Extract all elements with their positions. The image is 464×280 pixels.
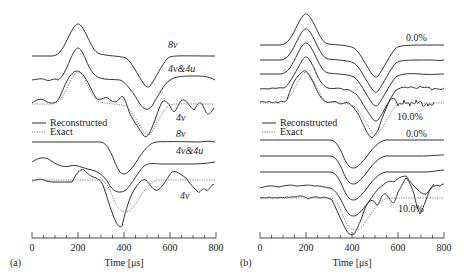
tick-a-800: 800 bbox=[209, 242, 224, 253]
label-a-lower-8v: 8v bbox=[176, 128, 186, 139]
x-axis-title-a: Time [μs] bbox=[104, 257, 143, 268]
tick-b-400: 400 bbox=[345, 242, 360, 253]
tick-a-200: 200 bbox=[71, 242, 86, 253]
trace-b-lower-1 bbox=[260, 155, 444, 184]
tick-a-0: 0 bbox=[30, 242, 35, 253]
label-a-lower-4v: 4v bbox=[180, 190, 190, 201]
tick-b-800: 800 bbox=[437, 242, 452, 253]
legend-b: Reconstructed Exact bbox=[262, 117, 337, 137]
figure: 8v 4v&4u 4v 8v 4v&4u 4v Reconstructed Ex… bbox=[0, 0, 464, 280]
x-axis-b: 0 200 400 600 800 Time [μs] bbox=[258, 232, 452, 268]
trace-a-upper-8v bbox=[32, 24, 215, 87]
legend-exact: Exact bbox=[50, 126, 73, 137]
tick-b-0: 0 bbox=[258, 242, 263, 253]
legend-exact: Exact bbox=[280, 126, 303, 137]
panel-b: 0.0% 10.0% 0.0% 10.0% Reconstructed Exac… bbox=[240, 14, 452, 269]
tick-a-600: 600 bbox=[163, 242, 178, 253]
label-b-lower-10pct: 10.0% bbox=[398, 203, 424, 214]
trace-a-lower-4v4u bbox=[32, 158, 215, 192]
label-a-lower-4v4u: 4v&4u bbox=[176, 145, 203, 156]
panel-tag-a: (a) bbox=[10, 257, 21, 269]
legend-a: Reconstructed Exact bbox=[32, 117, 107, 137]
trace-b-lower-0 bbox=[260, 140, 444, 168]
tick-b-600: 600 bbox=[391, 242, 406, 253]
tick-b-200: 200 bbox=[299, 242, 314, 253]
panel-a: 8v 4v&4u 4v 8v 4v&4u 4v Reconstructed Ex… bbox=[10, 24, 224, 269]
x-axis-a: 0 200 400 600 800 Time [μs] bbox=[30, 232, 224, 268]
label-a-upper-4v: 4v bbox=[176, 112, 186, 123]
label-b-lower-0pct: 0.0% bbox=[406, 128, 427, 139]
tick-a-400: 400 bbox=[117, 242, 132, 253]
label-a-upper-4v4u: 4v&4u bbox=[168, 63, 195, 74]
x-axis-title-b: Time [μs] bbox=[332, 257, 371, 268]
label-a-upper-8v: 8v bbox=[168, 39, 178, 50]
panel-tag-b: (b) bbox=[240, 257, 252, 269]
label-b-upper-10pct: 10.0% bbox=[397, 111, 423, 122]
label-b-upper-0pct: 0.0% bbox=[406, 32, 427, 43]
trace-b-upper-0 bbox=[260, 14, 444, 77]
